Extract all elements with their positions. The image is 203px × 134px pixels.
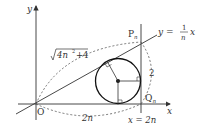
svg-text:y =: y =	[157, 27, 174, 37]
line-y-x-over-n	[16, 35, 157, 114]
arc-oq-length-label: 2n	[81, 113, 93, 123]
y-axis-label: y	[26, 4, 33, 14]
line-equation-label: y = 1 n x	[157, 24, 195, 42]
svg-text:4n: 4n	[56, 50, 68, 60]
vertical-line-label: x = 2n	[128, 115, 156, 125]
arc-pq-length-label: 2	[149, 68, 154, 78]
point-p-label: Pn	[128, 29, 138, 40]
x-axis-label: x	[167, 106, 172, 116]
origin-label: O	[37, 107, 44, 117]
point-q-label: Qn	[145, 93, 156, 104]
svg-text:n: n	[181, 34, 186, 42]
radius-to-line	[107, 61, 118, 81]
geometry-diagram: y x O Pn Qn y = 1 n x 4n 2 +4 2n 2 x = 2…	[0, 0, 203, 134]
svg-text:+4: +4	[76, 50, 89, 60]
svg-text:x: x	[190, 27, 195, 37]
arc-op-length-label: 4n 2 +4	[51, 48, 89, 60]
svg-text:1: 1	[182, 24, 186, 32]
svg-text:2: 2	[72, 48, 75, 54]
